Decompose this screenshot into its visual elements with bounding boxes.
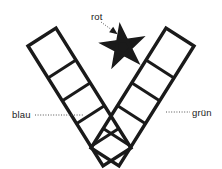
canvas-background xyxy=(0,0,222,169)
figure-container: rot blau grün xyxy=(0,0,222,169)
gruen-label: grün xyxy=(192,107,212,118)
blau-label: blau xyxy=(12,109,31,120)
figure-canvas: rot blau grün xyxy=(0,0,222,169)
rot-label: rot xyxy=(91,11,103,22)
